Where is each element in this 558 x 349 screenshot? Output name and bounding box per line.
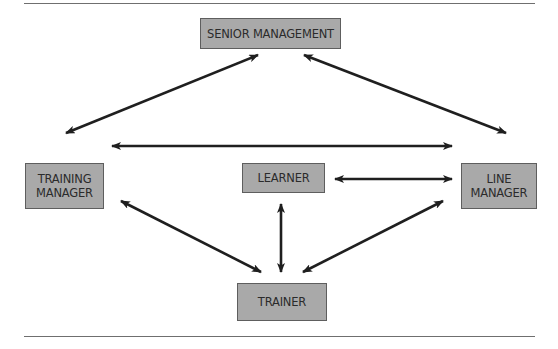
node-training-manager-line1: TRAINING — [38, 172, 92, 186]
arrow-line-trainer — [303, 201, 443, 272]
diagram-canvas: SENIOR MANAGEMENT TRAINING MANAGER LINE … — [0, 0, 558, 349]
node-line-manager-line1: LINE — [487, 172, 512, 186]
arrow-senior-training — [66, 55, 258, 133]
node-trainer: TRAINER — [237, 283, 327, 321]
node-learner-label: LEARNER — [258, 171, 310, 185]
arrow-senior-line — [304, 55, 506, 133]
node-line-manager: LINE MANAGER — [461, 163, 537, 209]
node-training-manager-line2: MANAGER — [36, 186, 93, 200]
node-senior-management-label: SENIOR MANAGEMENT — [207, 27, 334, 41]
node-line-manager-line2: MANAGER — [471, 186, 528, 200]
node-training-manager: TRAINING MANAGER — [25, 163, 104, 209]
node-trainer-label: TRAINER — [258, 295, 306, 309]
node-learner: LEARNER — [242, 163, 325, 193]
arrow-training-trainer — [121, 201, 261, 272]
node-senior-management: SENIOR MANAGEMENT — [200, 18, 341, 49]
